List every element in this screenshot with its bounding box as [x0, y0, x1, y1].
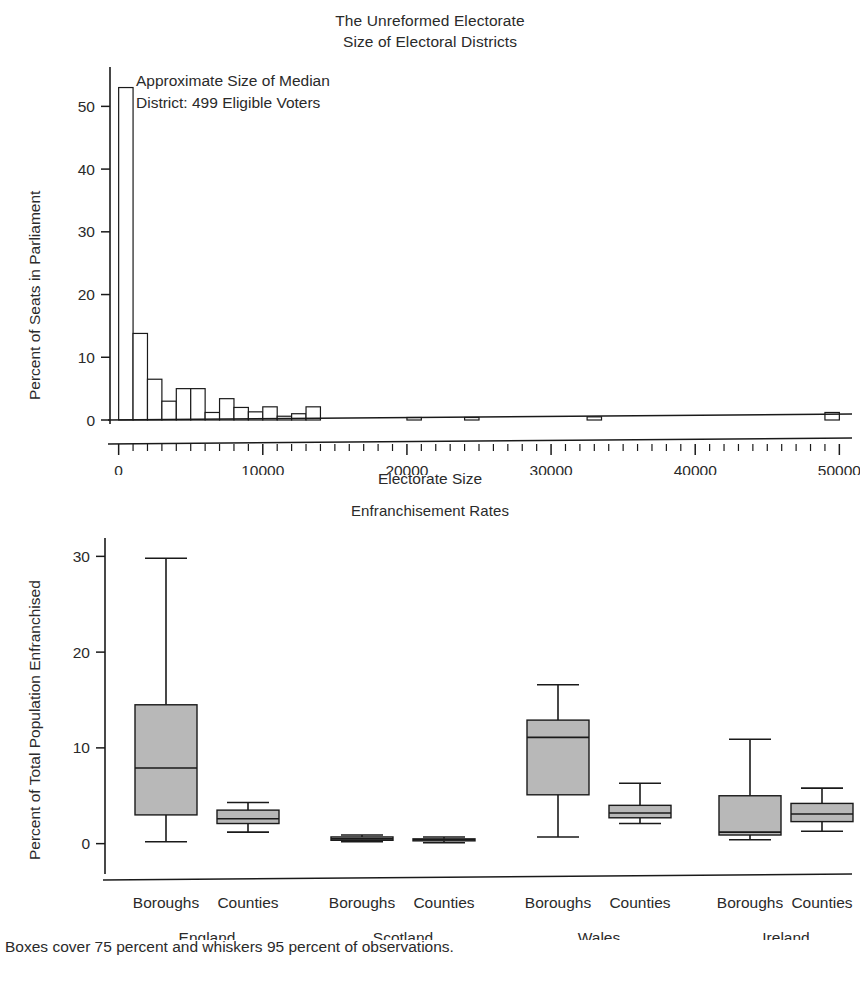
boxplot-box — [719, 739, 781, 840]
figure-page: The Unreformed Electorate Size of Electo… — [0, 0, 860, 995]
figure-title-line-2: Size of Electoral Districts — [0, 31, 860, 52]
boxplot-y-tick-label: 30 — [73, 548, 91, 565]
boxplot-iqr-box — [527, 720, 589, 795]
boxplot-box — [413, 837, 475, 843]
histogram-axes — [108, 67, 852, 444]
boxplot-category-label: Boroughs — [717, 894, 784, 911]
boxplot-category-labels: BoroughsCountiesBoroughsCountiesBoroughs… — [133, 894, 853, 911]
histogram-x-axis-line — [108, 438, 852, 444]
figure-footnote: Boxes cover 75 percent and whiskers 95 p… — [5, 938, 454, 956]
boxplot-box — [609, 783, 671, 823]
boxplot-box — [791, 788, 853, 831]
boxplot-iqr-box — [217, 810, 279, 823]
histogram-bar — [191, 389, 205, 420]
boxplot-x-axis-line — [103, 874, 852, 880]
boxplot-iqr-box — [135, 705, 197, 815]
boxplot-boxes — [135, 558, 853, 842]
boxplot-category-label: Counties — [791, 894, 852, 911]
histogram-y-tick-label: 20 — [78, 286, 96, 303]
histogram-x-tick-label: 40000 — [674, 462, 717, 475]
boxplot-box — [217, 802, 279, 832]
histogram-bar — [147, 379, 161, 420]
histogram-x-tick-label: 0 — [114, 462, 123, 475]
histogram-x-tick-label: 10000 — [241, 462, 284, 475]
histogram-plot: 01020304050 01000020000300004000050000 — [0, 55, 860, 475]
boxplot-category-label: Boroughs — [133, 894, 200, 911]
histogram-x-ticks: 01000020000300004000050000 — [114, 444, 860, 475]
boxplot-group-label: Ireland — [762, 929, 809, 940]
boxplot-category-label: Counties — [217, 894, 278, 911]
boxplot-y-tick-label: 20 — [73, 644, 91, 661]
boxplot-category-label: Boroughs — [525, 894, 592, 911]
boxplot-box — [527, 685, 589, 837]
histogram-y-tick-label: 40 — [78, 161, 96, 178]
boxplot-iqr-box — [719, 796, 781, 835]
histogram-bar — [587, 417, 601, 420]
boxplot-box — [135, 558, 197, 841]
histogram-bar — [133, 333, 147, 420]
boxplot-box — [331, 835, 393, 842]
histogram-bar — [176, 389, 190, 420]
boxplot-iqr-box — [609, 805, 671, 817]
boxplot-iqr-box — [791, 803, 853, 821]
histogram-y-tick-label: 30 — [78, 223, 96, 240]
histogram-bar — [162, 401, 176, 420]
boxplot-y-tick-label: 0 — [81, 835, 90, 852]
boxplot-category-label: Counties — [413, 894, 474, 911]
histogram-bar — [220, 399, 234, 420]
histogram-y-tick-label: 0 — [86, 412, 95, 429]
histogram-y-tick-label: 10 — [78, 349, 96, 366]
histogram-x-tick-label: 20000 — [385, 462, 428, 475]
histogram-x-tick-label: 30000 — [530, 462, 573, 475]
boxplot-y-tick-label: 10 — [73, 739, 91, 756]
boxplot-y-ticks: 0102030 — [73, 548, 105, 852]
boxplot-group-label: Wales — [578, 929, 621, 940]
boxplot-plot: 0102030 BoroughsCountiesBoroughsCounties… — [0, 520, 860, 940]
boxplot-title: Enfranchisement Rates — [0, 500, 860, 521]
boxplot-category-label: Boroughs — [329, 894, 396, 911]
histogram-y-ticks: 01020304050 — [78, 98, 110, 429]
histogram-bars — [119, 88, 840, 420]
histogram-bar — [119, 88, 133, 420]
histogram-y-tick-label: 50 — [78, 98, 96, 115]
figure-title-line-1: The Unreformed Electorate — [0, 10, 860, 31]
boxplot-category-label: Counties — [609, 894, 670, 911]
histogram-x-tick-label: 50000 — [818, 462, 860, 475]
